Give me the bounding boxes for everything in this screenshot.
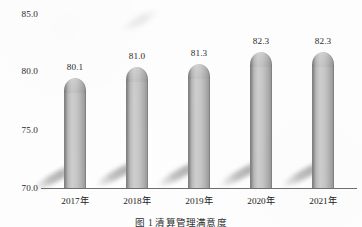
y-tick-label: 75.0 [2, 125, 38, 135]
y-tick-label: 85.0 [2, 9, 38, 19]
y-tick-label: 80.0 [2, 66, 38, 76]
x-tick-label-2020: 2020年 [230, 193, 292, 207]
x-tick-label-2018: 2018年 [106, 193, 168, 207]
x-tick-label-2021: 2021年 [292, 193, 354, 207]
figure-caption: 图 1 清算管理满意度 [0, 215, 362, 227]
x-tick-label-2017: 2017年 [44, 193, 106, 207]
figure-caption-text: 图 1 清算管理满意度 [135, 215, 227, 227]
bar-chart-figure: 85.0 80.0 75.0 70.0 80.1 81.0 81.3 82.3 … [0, 0, 362, 227]
x-tick-label-2019: 2019年 [168, 193, 230, 207]
y-tick-label: 70.0 [2, 183, 38, 193]
